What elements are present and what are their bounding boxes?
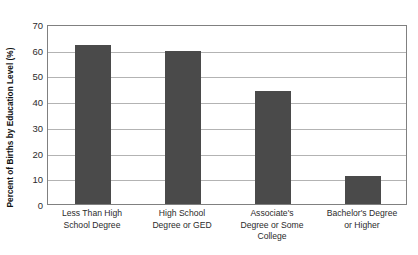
y-tick-label: 40 bbox=[19, 98, 43, 108]
category-label-line: Bachelor's Degree bbox=[309, 208, 415, 220]
plot-area bbox=[47, 25, 407, 205]
bar bbox=[345, 176, 381, 204]
bar bbox=[255, 91, 291, 204]
y-tick-label: 70 bbox=[19, 21, 43, 31]
bar-chart: Percent of Births by Education Level (%)… bbox=[0, 0, 418, 255]
category-label: Bachelor's Degreeor Higher bbox=[309, 208, 415, 231]
y-tick-label: 10 bbox=[19, 175, 43, 185]
category-label-line: College bbox=[219, 231, 325, 243]
y-tick-label: 50 bbox=[19, 72, 43, 82]
x-axis-category-labels: Less Than HighSchool DegreeHigh SchoolDe… bbox=[47, 208, 407, 254]
bar bbox=[75, 45, 111, 204]
y-tick-label: 30 bbox=[19, 123, 43, 133]
category-label-line: or Higher bbox=[309, 220, 415, 232]
bar bbox=[165, 51, 201, 204]
y-axis-tick-labels: 010203040506070 bbox=[15, 25, 43, 205]
y-tick-label: 20 bbox=[19, 149, 43, 159]
y-tick-label: 60 bbox=[19, 46, 43, 56]
